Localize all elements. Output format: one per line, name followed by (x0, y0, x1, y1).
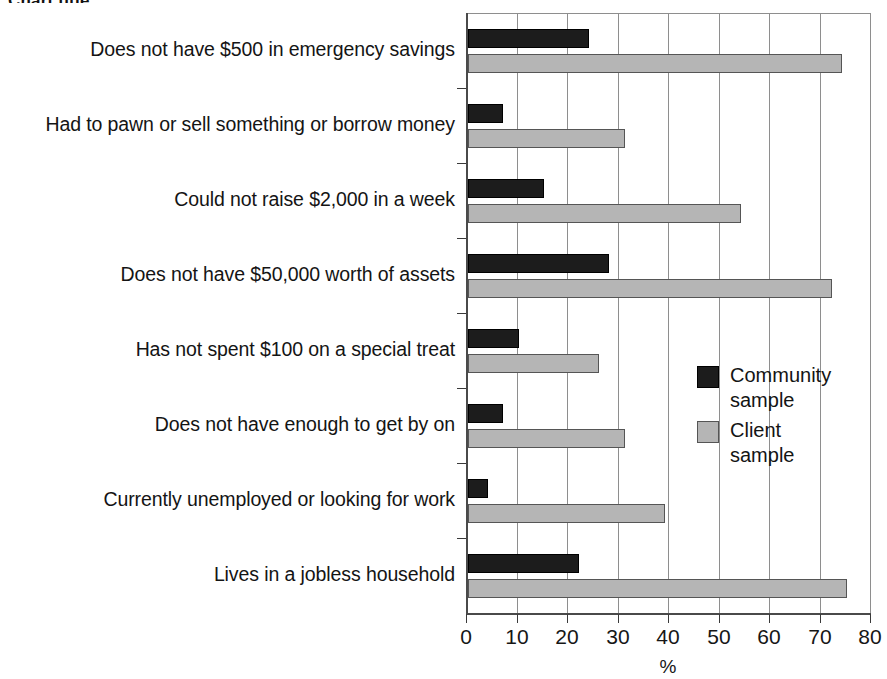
bar-client-4 (468, 354, 599, 373)
y-tick-5 (457, 388, 466, 389)
bar-chart: Chart title 01020304050607080 % Does not… (0, 0, 887, 679)
x-tick-80 (870, 614, 871, 623)
x-tick-label-70: 70 (795, 625, 845, 649)
legend-label-community-sample: Community sample (730, 363, 831, 413)
gridline-50 (719, 13, 720, 613)
legend-item-community-sample: Community sample (697, 363, 831, 413)
x-tick-40 (668, 614, 669, 623)
bar-community-3 (468, 254, 609, 273)
y-tick-4 (457, 313, 466, 314)
y-tick-6 (457, 463, 466, 464)
x-tick-30 (618, 614, 619, 623)
bar-community-4 (468, 329, 519, 348)
y-tick-3 (457, 238, 466, 239)
gridline-20 (567, 13, 568, 613)
y-tick-1 (457, 88, 466, 89)
x-tick-60 (769, 614, 770, 623)
gridline-30 (618, 13, 619, 613)
x-tick-label-0: 0 (441, 625, 491, 649)
x-tick-50 (719, 614, 720, 623)
x-tick-label-50: 50 (694, 625, 744, 649)
chart-title: Chart title (8, 0, 90, 3)
bar-client-3 (468, 279, 832, 298)
category-label-0: Does not have $500 in emergency savings (0, 38, 455, 61)
x-tick-label-10: 10 (492, 625, 542, 649)
bar-community-1 (468, 104, 503, 123)
bar-client-7 (468, 579, 847, 598)
bar-community-6 (468, 479, 488, 498)
bar-client-0 (468, 54, 842, 73)
x-tick-label-40: 40 (643, 625, 693, 649)
gridline-70 (820, 13, 821, 613)
x-tick-label-20: 20 (542, 625, 592, 649)
legend-item-client-sample: Client sample (697, 418, 794, 468)
gridline-10 (517, 13, 518, 613)
x-tick-20 (567, 614, 568, 623)
category-label-1: Had to pawn or sell something or borrow … (0, 113, 455, 136)
legend-swatch-client-sample (697, 421, 719, 443)
x-tick-label-60: 60 (744, 625, 794, 649)
bar-community-5 (468, 404, 503, 423)
x-tick-label-80: 80 (845, 625, 887, 649)
bar-community-7 (468, 554, 579, 573)
bar-client-6 (468, 504, 665, 523)
x-axis-title: % (638, 656, 698, 678)
gridline-80 (870, 13, 871, 613)
y-tick-7 (457, 538, 466, 539)
gridline-60 (769, 13, 770, 613)
category-label-4: Has not spent $100 on a special treat (0, 338, 455, 361)
x-tick-70 (820, 614, 821, 623)
gridline-40 (668, 13, 669, 613)
legend-swatch-community-sample (697, 366, 719, 388)
category-label-2: Could not raise $2,000 in a week (0, 188, 455, 211)
x-tick-label-30: 30 (593, 625, 643, 649)
bar-community-0 (468, 29, 589, 48)
plot-area: 01020304050607080 % (466, 13, 870, 613)
bar-client-2 (468, 204, 741, 223)
bar-client-1 (468, 129, 625, 148)
category-label-5: Does not have enough to get by on (0, 413, 455, 436)
bar-client-5 (468, 429, 625, 448)
category-label-7: Lives in a jobless household (0, 563, 455, 586)
y-tick-2 (457, 163, 466, 164)
x-tick-0 (466, 614, 467, 623)
x-tick-10 (517, 614, 518, 623)
category-label-3: Does not have $50,000 worth of assets (0, 263, 455, 286)
legend-label-client-sample: Client sample (730, 418, 794, 468)
bar-community-2 (468, 179, 544, 198)
category-label-6: Currently unemployed or looking for work (0, 488, 455, 511)
